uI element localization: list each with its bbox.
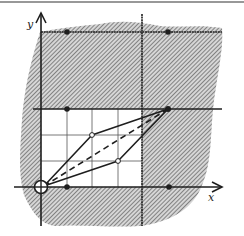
lattice-dot: [166, 184, 172, 190]
diagram-canvas: x y: [0, 0, 244, 236]
vertex-lower-open: [116, 159, 121, 164]
origin-marker: [35, 181, 48, 194]
lattice-dot: [64, 29, 70, 35]
y-axis-label: y: [26, 18, 34, 31]
vertex-upper-open: [90, 133, 95, 138]
lattice-dot: [64, 184, 70, 190]
lattice-dot: [64, 106, 70, 112]
unshaded-grid-area: [41, 109, 142, 187]
x-axis-label: x: [208, 191, 215, 204]
vertex-far-dot: [165, 106, 171, 112]
lattice-dot: [165, 29, 171, 35]
